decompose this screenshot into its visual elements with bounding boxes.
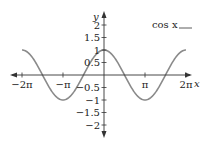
- legend: cos x: [152, 19, 192, 30]
- chart: −2π−ππ2π21.510.5−0.5−1−1.5−2 cos x y x: [0, 0, 210, 149]
- x-tick-label: −2π: [11, 79, 33, 90]
- y-tick-label: 0.5: [84, 57, 100, 68]
- y-tick-label: 1: [94, 45, 100, 56]
- x-tick-label: −π: [56, 79, 71, 90]
- x-tick-label: 2π: [180, 79, 193, 90]
- legend-label: cos x: [152, 19, 178, 30]
- y-axis-down-arrow-icon: [102, 131, 107, 138]
- y-axis-up-arrow-icon: [102, 11, 107, 18]
- y-tick-label: −1: [85, 95, 100, 106]
- y-tick-label: −0.5: [76, 82, 100, 93]
- y-axis-label: y: [92, 11, 99, 22]
- y-tick-label: −2: [85, 120, 100, 131]
- x-axis-left-arrow-icon: [10, 73, 17, 78]
- axes: [10, 11, 192, 138]
- x-tick-label: π: [142, 79, 149, 90]
- y-tick-label: 1.5: [84, 32, 100, 43]
- y-tick-label: −1.5: [76, 107, 100, 118]
- x-axis-label: x: [194, 78, 200, 89]
